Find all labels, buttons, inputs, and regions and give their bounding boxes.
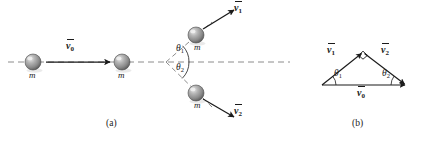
vector-overbar-v1-a (235, 1, 242, 2)
label-theta1-panel-a: θ1 (176, 44, 184, 55)
label-theta1-subscript-a: 1 (181, 47, 184, 54)
vector-overbar-v1-b (328, 43, 335, 44)
velocity-arrow-v1 (203, 10, 234, 29)
label-theta2-subscript-b: 2 (387, 72, 390, 79)
label-v0-subscript-a: 0 (70, 45, 74, 53)
angle-arc-theta2-b (391, 76, 394, 85)
figure-canvas (0, 0, 433, 145)
label-mass-scattered-lower: m (194, 101, 201, 110)
panel-a-group (8, 10, 290, 117)
label-v2-subscript-a: 2 (238, 110, 242, 118)
caption-panel-a: (a) (106, 119, 117, 129)
label-theta2-subscript-a: 2 (181, 66, 184, 73)
label-v1-panel-a: v1 (234, 3, 242, 15)
label-theta1-subscript-b: 1 (339, 72, 342, 79)
label-theta1-panel-b: θ1 (334, 69, 342, 80)
vector-overbar-v2-a (235, 104, 242, 105)
label-mass-target: m (118, 71, 125, 80)
label-v0-subscript-b: 0 (361, 92, 365, 100)
label-theta2-panel-b: θ2 (382, 69, 390, 80)
label-v0-panel-b: v0 (357, 88, 365, 100)
velocity-arrow-v2 (203, 99, 234, 117)
physics-collision-figure: v0 v1 v2 m m m m θ1 θ2 v1 v2 v0 θ1 θ2 (a… (0, 0, 433, 145)
label-v1-subscript-a: 1 (238, 7, 242, 15)
caption-panel-b: (b) (352, 119, 363, 129)
label-mass-scattered-upper: m (194, 43, 201, 52)
label-v0-panel-a: v0 (66, 41, 74, 53)
label-v2-panel-a: v2 (234, 106, 242, 118)
vector-overbar-v2-b (382, 43, 389, 44)
label-theta2-panel-a: θ2 (176, 63, 184, 74)
label-mass-incoming: m (29, 71, 36, 80)
vector-overbar-v0-b (358, 86, 365, 87)
label-v2-subscript-b: 2 (385, 49, 389, 57)
label-v1-panel-b: v1 (327, 45, 335, 57)
label-v1-subscript-b: 1 (331, 49, 335, 57)
vector-overbar-v0-a (67, 39, 74, 40)
label-v2-panel-b: v2 (381, 45, 389, 57)
